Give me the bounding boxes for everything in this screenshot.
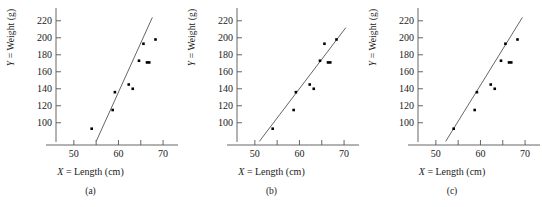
data-point xyxy=(148,61,151,64)
panel-caption: (a) xyxy=(0,186,181,197)
y-tick-label-160: 160 xyxy=(218,66,233,77)
x-tick-label-50: 50 xyxy=(250,148,260,159)
data-point xyxy=(114,91,117,94)
data-point xyxy=(308,83,311,86)
y-axis-label-text: = Weight (g) xyxy=(6,9,16,61)
x-tick-label-60: 60 xyxy=(294,148,304,159)
y-tick-label-120: 120 xyxy=(399,100,414,111)
y-tick-label-100: 100 xyxy=(218,117,233,128)
y-tick-label-100: 100 xyxy=(399,117,414,128)
shallow-fit-line xyxy=(259,28,346,142)
data-point xyxy=(329,61,332,64)
x-axis-label: X = Length (cm) xyxy=(0,166,181,178)
x-axis-label-text: = Length (cm) xyxy=(425,166,485,177)
x-tick-label-70: 70 xyxy=(520,148,530,159)
y-axis-label: Y = Weight (g) xyxy=(187,0,198,93)
data-point xyxy=(111,109,114,112)
y-axis-label-text: = Weight (g) xyxy=(368,9,378,61)
data-point xyxy=(271,127,274,130)
y-tick-label-180: 180 xyxy=(399,49,414,60)
x-tick-label-50: 50 xyxy=(431,148,441,159)
x-axis-label: X = Length (cm) xyxy=(362,166,542,178)
data-point xyxy=(452,127,455,130)
data-point xyxy=(90,127,93,130)
data-point xyxy=(154,38,157,41)
y-axis-label-variable: Y xyxy=(368,61,378,66)
data-point xyxy=(142,42,145,45)
y-tick-label-180: 180 xyxy=(218,49,233,60)
data-point xyxy=(323,42,326,45)
data-point xyxy=(131,87,134,90)
steep-fit-line xyxy=(96,17,152,141)
y-tick-label-120: 120 xyxy=(218,100,233,111)
x-tick-label-70: 70 xyxy=(158,148,168,159)
data-point xyxy=(489,83,492,86)
data-point xyxy=(500,59,503,62)
chart-panel-c: 100120140160180200220506070Y = Weight (g… xyxy=(362,0,542,207)
data-point xyxy=(504,42,507,45)
data-point xyxy=(473,109,476,112)
x-tick-label-50: 50 xyxy=(69,148,79,159)
data-point xyxy=(476,91,479,94)
x-tick-label-60: 60 xyxy=(475,148,485,159)
y-axis-label-text: = Weight (g) xyxy=(187,9,197,61)
x-tick-label-60: 60 xyxy=(113,148,123,159)
y-tick-label-220: 220 xyxy=(37,15,52,26)
x-axis-label: X = Length (cm) xyxy=(181,166,362,178)
data-point xyxy=(146,61,149,64)
y-axis-label-variable: Y xyxy=(6,61,16,66)
scatterplot-figure: 100120140160180200220506070Y = Weight (g… xyxy=(0,0,542,207)
y-tick-label-220: 220 xyxy=(218,15,233,26)
data-point xyxy=(292,109,295,112)
panel-caption: (b) xyxy=(181,186,362,197)
y-tick-label-120: 120 xyxy=(37,100,52,111)
y-tick-label-140: 140 xyxy=(399,83,414,94)
x-tick-label-70: 70 xyxy=(339,148,349,159)
data-point xyxy=(138,59,141,62)
chart-panel-b: 100120140160180200220506070Y = Weight (g… xyxy=(181,0,362,207)
y-axis-label: Y = Weight (g) xyxy=(6,0,17,93)
data-point xyxy=(312,87,315,90)
x-axis-label-text: = Length (cm) xyxy=(244,166,304,177)
y-tick-label-160: 160 xyxy=(399,66,414,77)
medium-fit-line xyxy=(446,17,523,141)
y-tick-label-180: 180 xyxy=(37,49,52,60)
panel-caption: (c) xyxy=(362,186,542,197)
y-tick-label-140: 140 xyxy=(37,83,52,94)
data-point xyxy=(510,61,513,64)
y-tick-label-160: 160 xyxy=(37,66,52,77)
x-axis-label-text: = Length (cm) xyxy=(63,166,123,177)
data-point xyxy=(493,87,496,90)
y-axis-label: Y = Weight (g) xyxy=(368,0,379,93)
y-tick-label-200: 200 xyxy=(399,32,414,43)
y-tick-label-220: 220 xyxy=(399,15,414,26)
data-point xyxy=(295,91,298,94)
y-tick-label-140: 140 xyxy=(218,83,233,94)
y-axis-label-variable: Y xyxy=(187,61,197,66)
data-point xyxy=(516,38,519,41)
y-tick-label-200: 200 xyxy=(218,32,233,43)
y-tick-label-200: 200 xyxy=(37,32,52,43)
data-point xyxy=(127,83,130,86)
data-point xyxy=(335,38,338,41)
y-tick-label-100: 100 xyxy=(37,117,52,128)
data-point xyxy=(508,61,511,64)
data-point xyxy=(319,59,322,62)
data-point xyxy=(327,61,330,64)
chart-panel-a: 100120140160180200220506070Y = Weight (g… xyxy=(0,0,181,207)
